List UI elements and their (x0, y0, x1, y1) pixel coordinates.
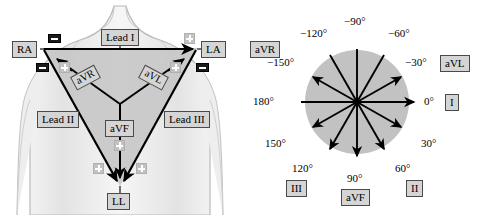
label-ll-electrode: LL (107, 193, 130, 210)
electrode-positive-avf (114, 140, 125, 151)
minus-icon (51, 38, 58, 40)
hexaxial-reference-panel: −90° −120° −150° 180° 150° 120° 90° 60° … (240, 0, 479, 215)
electrode-negative-ra-lower (36, 63, 49, 72)
angle-label-neg90: −90° (344, 16, 366, 27)
electrode-positive-avl (170, 62, 181, 73)
angle-label-neg60: −60° (388, 28, 410, 39)
label-lead-iii: Lead III (164, 111, 210, 128)
angle-label-120: 120° (292, 163, 313, 174)
electrode-positive-ll-left (93, 163, 104, 174)
electrode-negative-la-lower (196, 63, 209, 72)
minus-icon (199, 67, 206, 69)
lead-box-avr: aVR (250, 41, 280, 58)
ecg-lead-figure: Lead I RA LA LL aVR aVL aVF Lead II Lead… (0, 0, 479, 215)
electrode-positive-ll-right (136, 163, 147, 174)
lead-box-iii: III (286, 180, 307, 197)
angle-label-60: 60° (395, 163, 410, 174)
electrode-negative-ra-top (48, 34, 61, 43)
lead-box-ii: II (406, 180, 423, 197)
label-avf: aVF (105, 120, 134, 137)
angle-label-neg120: −120° (300, 28, 327, 39)
plus-icon (116, 142, 123, 149)
label-lead-i: Lead I (101, 29, 139, 46)
angle-label-90: 90° (347, 173, 362, 184)
lead-box-avf: aVF (341, 189, 370, 206)
plus-icon (61, 64, 68, 71)
angle-label-180: 180° (253, 96, 274, 107)
plus-icon (95, 165, 102, 172)
angle-label-neg150: −150° (267, 57, 294, 68)
label-ra-electrode: RA (12, 41, 37, 58)
angle-label-150: 150° (265, 138, 286, 149)
angle-label-neg30: −30° (405, 57, 427, 68)
angle-label-0: 0° (424, 96, 434, 107)
plus-icon (138, 165, 145, 172)
electrode-positive-avr (59, 62, 70, 73)
hexaxial-axis-arrows (301, 49, 414, 156)
label-lead-ii: Lead II (37, 111, 79, 128)
minus-icon (39, 67, 46, 69)
lead-box-avl: aVL (440, 55, 470, 72)
angle-label-30: 30° (421, 138, 436, 149)
plus-icon (172, 64, 179, 71)
plus-icon (186, 35, 193, 42)
label-la-electrode: LA (201, 41, 226, 58)
einthoven-triangle-panel: Lead I RA LA LL aVR aVL aVF Lead II Lead… (0, 0, 240, 215)
lead-box-i: I (445, 94, 459, 111)
electrode-positive-la-top (184, 33, 195, 44)
